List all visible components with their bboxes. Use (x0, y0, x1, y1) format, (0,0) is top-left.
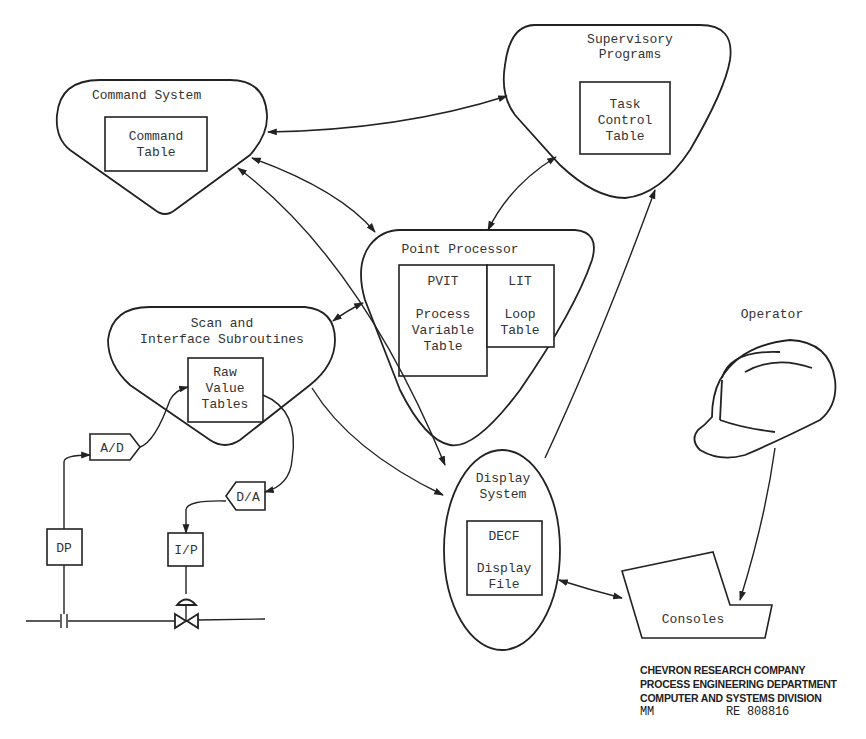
process-pipe (26, 600, 265, 629)
credit-line-department: PROCESS ENGINEERING DEPARTMENT (640, 677, 837, 691)
point-processor-title: Point Processor (401, 242, 518, 257)
supervisory-programs-node: Supervisory Programs Task Control Table (504, 25, 731, 198)
command-system-title: Command System (92, 88, 201, 103)
raw-value-label-2: Value (205, 381, 244, 396)
command-table-label-1: Command (129, 129, 184, 144)
display-title-1: Display (476, 471, 531, 486)
raw-value-label-1: Raw (213, 365, 237, 380)
display-file-label-2: File (488, 577, 519, 592)
display-file-label-1: Display (477, 561, 532, 576)
system-diagram: Command System Command Table Supervisory… (0, 0, 866, 739)
credit-ref: RE 808816 (726, 705, 789, 719)
credit-initials: MM (640, 705, 726, 719)
task-control-label-3: Table (605, 129, 644, 144)
supervisory-title-2: Programs (599, 47, 661, 62)
raw-value-label-3: Tables (202, 397, 249, 412)
command-table-label-2: Table (136, 145, 175, 160)
pvit-code: PVIT (427, 274, 458, 289)
supervisory-title-1: Supervisory (587, 32, 673, 47)
valve-actuator-icon (177, 600, 196, 606)
lit-label-2: Table (500, 323, 539, 338)
ip-label: I/P (174, 543, 198, 558)
display-title-2: System (480, 487, 527, 502)
ip-transducer: I/P (168, 533, 203, 566)
da-converter: D/A (226, 482, 265, 510)
dp-label: DP (56, 541, 72, 556)
lit-code: LIT (508, 274, 532, 289)
lit-label-1: Loop (504, 307, 535, 322)
pvit-label-1: Process (416, 307, 471, 322)
command-system-node: Command System Command Table (57, 80, 267, 214)
ad-label: A/D (100, 441, 124, 456)
scan-title-1: Scan and (191, 316, 253, 331)
pvit-label-2: Variable (412, 323, 474, 338)
ad-converter: A/D (90, 434, 140, 460)
credit-line-division: COMPUTER AND SYSTEMS DIVISION (640, 691, 837, 705)
scan-interface-node: Scan and Interface Subroutines Raw Value… (108, 307, 335, 445)
operator-label: Operator (741, 307, 803, 322)
decf-code: DECF (488, 529, 519, 544)
task-control-label-1: Task (609, 97, 640, 112)
pvit-label-3: Table (423, 339, 462, 354)
operator-helmet-icon: Operator (694, 307, 835, 458)
consoles-label: Consoles (662, 612, 724, 627)
consoles-node: Consoles (622, 552, 772, 638)
command-table-box (105, 117, 207, 171)
task-control-label-2: Control (598, 113, 653, 128)
da-label: D/A (236, 490, 260, 505)
scan-title-2: Interface Subroutines (140, 332, 304, 347)
display-system-node: Display System DECF Display File (444, 450, 560, 650)
credit-block: CHEVRON RESEARCH COMPANY PROCESS ENGINEE… (640, 663, 837, 719)
dp-transmitter: DP (47, 529, 82, 565)
credit-line-company: CHEVRON RESEARCH COMPANY (640, 663, 837, 677)
point-processor-node: Point Processor PVIT Process Variable Ta… (361, 230, 594, 445)
